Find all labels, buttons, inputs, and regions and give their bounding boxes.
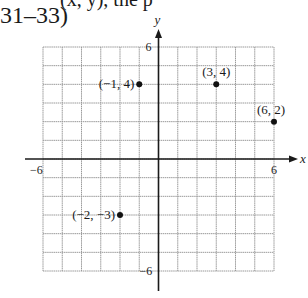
data-point — [271, 119, 277, 125]
data-point — [213, 81, 219, 87]
data-points: (−1, 4)(3, 4)(6, 2)(−2, −3) — [72, 64, 285, 222]
data-point-label: (−2, −3) — [72, 207, 115, 222]
data-point-label: (3, 4) — [202, 64, 230, 79]
y-tick-label-min: −6 — [140, 264, 153, 278]
data-point-label: (6, 2) — [257, 102, 285, 117]
data-point — [136, 81, 142, 87]
x-tick-label-min: −6 — [30, 163, 43, 177]
y-axis-label: y — [153, 12, 161, 27]
x-axis-arrow-icon — [289, 156, 298, 163]
y-tick-label-max: 6 — [146, 40, 152, 54]
coordinate-plane: xy −666−6 (−1, 4)(3, 4)(6, 2)(−2, −3) — [0, 0, 308, 298]
data-point-label: (−1, 4) — [99, 76, 135, 91]
x-tick-label-max: 6 — [271, 163, 277, 177]
data-point — [117, 212, 123, 218]
y-axis-arrow-icon — [155, 29, 162, 38]
x-axis-label: x — [299, 151, 306, 166]
axes: xy — [25, 12, 306, 291]
